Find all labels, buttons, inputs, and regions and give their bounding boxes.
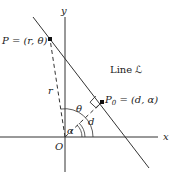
- polar-line-diagram: y x O P = (r, θ) P0 = (d, α) Line ℒ r d …: [0, 0, 174, 173]
- y-axis-label: y: [60, 5, 67, 16]
- P0-rest: = (d, α): [116, 94, 158, 105]
- segment-r-label: r: [48, 85, 54, 96]
- angle-alpha-label: α: [67, 125, 74, 136]
- origin-label: O: [55, 141, 63, 152]
- x-axis-label: x: [163, 131, 169, 142]
- point-P0-label: P0 = (d, α): [104, 94, 158, 107]
- point-P: [48, 37, 52, 41]
- angle-theta-label: θ: [76, 103, 82, 114]
- segment-d-label: d: [88, 116, 94, 127]
- point-P0: [100, 100, 104, 104]
- line-L-label: Line ℒ: [110, 64, 142, 75]
- alpha-arc-inner: [77, 125, 82, 137]
- point-P-label: P = (r, θ): [1, 35, 47, 46]
